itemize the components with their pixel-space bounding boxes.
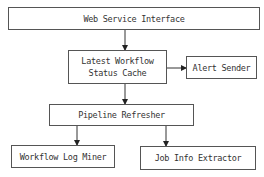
node-web-service-interface: Web Service Interface — [8, 7, 260, 30]
node-label: Job Info Extractor — [155, 152, 242, 164]
node-latest-workflow-status-cache: Latest Workflow Status Cache — [68, 50, 167, 84]
node-label-line1: Latest Workflow — [81, 55, 153, 67]
node-label: Workflow Log Miner — [20, 151, 107, 163]
node-label-line2: Status Cache — [89, 67, 147, 79]
node-label: Alert Sender — [193, 62, 251, 74]
node-alert-sender: Alert Sender — [186, 56, 257, 79]
node-label: Pipeline Refresher — [78, 109, 165, 121]
node-label: Web Service Interface — [83, 13, 184, 25]
node-job-info-extractor: Job Info Extractor — [140, 146, 256, 170]
node-workflow-log-miner: Workflow Log Miner — [11, 145, 115, 168]
diagram-canvas: Web Service Interface Latest Workflow St… — [0, 0, 264, 177]
node-pipeline-refresher: Pipeline Refresher — [49, 104, 194, 126]
